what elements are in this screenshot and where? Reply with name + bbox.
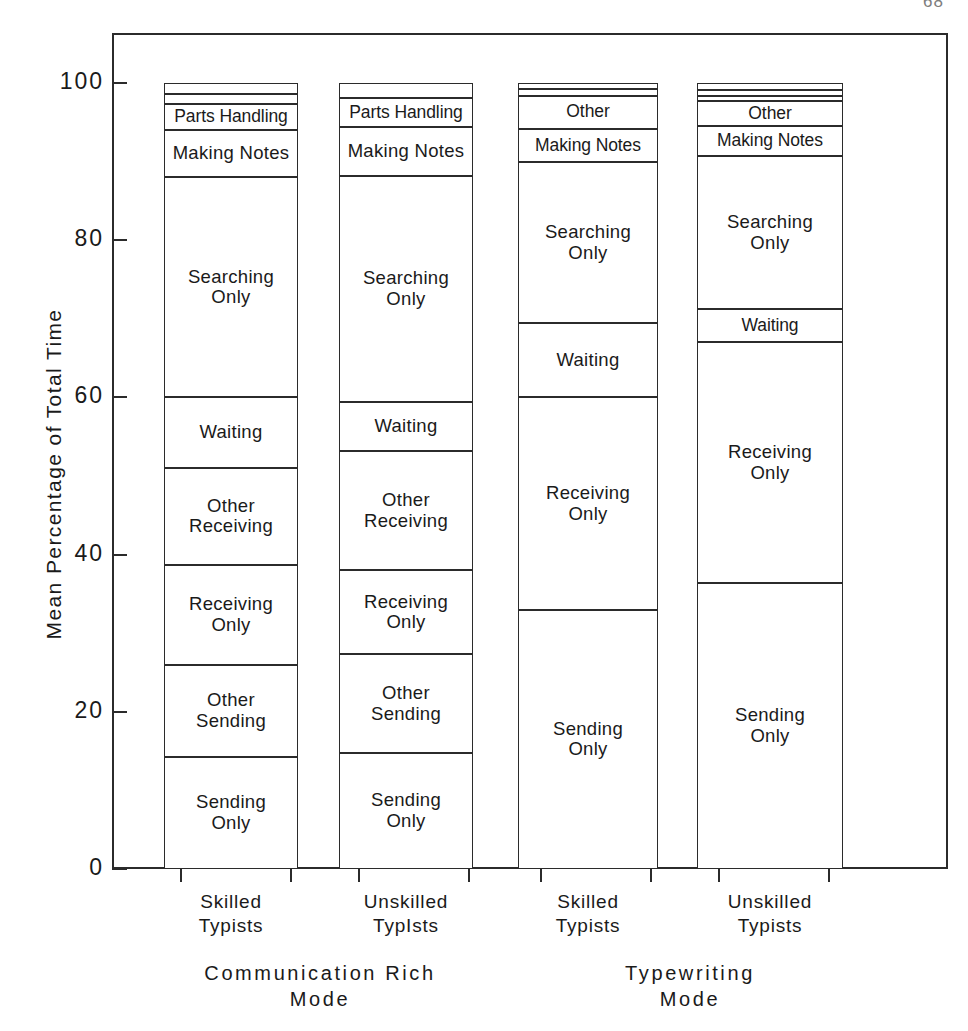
bar-segment: Other Sending	[339, 654, 473, 752]
bar-segment-label: Receiving Only	[545, 483, 631, 524]
bar-segment: Waiting	[518, 323, 658, 398]
bar-segment: Receiving Only	[339, 570, 473, 654]
bar-segment-label: Other Receiving	[363, 490, 449, 531]
bar-segment: Parts Handling	[339, 98, 473, 127]
bar-segment-label: Sending Only	[552, 719, 624, 760]
bar-segment: Parts Handling	[164, 104, 298, 130]
stacked-bar: Parts HandlingMaking NotesSearching Only…	[164, 83, 298, 869]
bar-segment: Waiting	[164, 397, 298, 468]
bar-segment	[164, 83, 298, 94]
bar-segment	[339, 83, 473, 98]
bar-segment: Waiting	[339, 402, 473, 451]
y-axis-tick-label: 80	[8, 225, 104, 252]
x-axis-group-label: Typewriting Mode	[520, 960, 860, 1012]
bar-segment: Searching Only	[518, 162, 658, 322]
bar-segment: Other Receiving	[339, 451, 473, 570]
bar-segment-label: Receiving Only	[363, 592, 449, 633]
bar-segment: Other	[518, 96, 658, 129]
bar-segment-label: Receiving Only	[727, 442, 813, 483]
bar-segment-label: Making Notes	[716, 131, 824, 151]
y-axis-tick-label: 100	[8, 68, 104, 95]
bar-segment: Searching Only	[339, 176, 473, 402]
y-axis-tick-label: 40	[8, 540, 104, 567]
x-axis-category-label: Unskilled Typists	[657, 890, 883, 938]
bar-segment-label: Waiting	[555, 350, 620, 371]
bar-segment-label: Sending Only	[370, 790, 442, 831]
bar-segment: Other Sending	[164, 665, 298, 757]
x-axis-tick	[540, 869, 542, 882]
bar-segment: Making Notes	[518, 129, 658, 163]
bar-segment: Sending Only	[164, 757, 298, 869]
bar-segment-label: Other Sending	[195, 690, 267, 731]
bar-segment-label: Other Sending	[370, 683, 442, 724]
bar-segment: Searching Only	[164, 177, 298, 397]
bar-segment-label: Parts Handling	[348, 103, 463, 123]
bar-segment: Receiving Only	[164, 565, 298, 665]
bar-segment: Making Notes	[339, 127, 473, 176]
bar-segment: Searching Only	[697, 156, 843, 309]
bar-segment	[164, 94, 298, 104]
bar-segment-label: Receiving Only	[188, 594, 274, 635]
x-axis-tick	[718, 869, 720, 882]
bar-segment-label: Making Notes	[172, 143, 291, 164]
bar-segment-label: Making Notes	[347, 141, 466, 162]
bar-segment-label: Searching Only	[726, 212, 814, 253]
bar-segment: Receiving Only	[518, 397, 658, 609]
bar-segment-label: Making Notes	[534, 136, 642, 156]
bar-segment: Waiting	[697, 309, 843, 342]
bar-segment-label: Parts Handling	[173, 107, 288, 127]
stacked-bar: OtherMaking NotesSearching OnlyWaitingRe…	[518, 83, 658, 869]
bar-segment-label: Searching Only	[362, 268, 450, 309]
x-axis-tick	[828, 869, 830, 882]
stacked-bar: OtherMaking NotesSearching OnlyWaitingRe…	[697, 83, 843, 869]
bar-segment-label: Waiting	[373, 416, 438, 437]
y-axis-tick-label: 20	[8, 697, 104, 724]
bar-segment: Receiving Only	[697, 342, 843, 583]
x-axis-tick	[358, 869, 360, 882]
stacked-bar: Parts HandlingMaking NotesSearching Only…	[339, 83, 473, 869]
bar-segment-label: Searching Only	[187, 267, 275, 308]
bar-segment: Making Notes	[697, 126, 843, 156]
y-axis-tick-label: 0	[8, 854, 104, 881]
bar-segment: Sending Only	[518, 610, 658, 869]
bar-segment: Sending Only	[697, 583, 843, 869]
page-number: 68	[923, 0, 944, 12]
bar-segment-label: Other Receiving	[188, 496, 274, 537]
bar-segment: Sending Only	[339, 753, 473, 869]
y-axis-tick-label: 60	[8, 382, 104, 409]
bar-segment-label: Waiting	[740, 316, 799, 336]
x-axis-tick	[290, 869, 292, 882]
bar-segment-label: Waiting	[198, 422, 263, 443]
y-axis-title: Mean Percentage of Total Time	[42, 164, 66, 784]
x-axis-tick	[468, 869, 470, 882]
x-axis-tick	[650, 869, 652, 882]
bar-segment-label: Other	[565, 102, 610, 122]
bar-segment	[697, 83, 843, 90]
x-axis-tick	[180, 869, 182, 882]
bar-segment: Other	[697, 101, 843, 126]
bar-segment-label: Searching Only	[544, 222, 632, 263]
bar-segment-label: Sending Only	[195, 792, 267, 833]
bar-segment: Other Receiving	[164, 468, 298, 565]
x-axis-group-label: Communication Rich Mode	[150, 960, 490, 1012]
bar-segment-label: Other	[747, 104, 792, 124]
bar-segment: Making Notes	[164, 130, 298, 177]
bar-segment-label: Sending Only	[734, 705, 806, 746]
